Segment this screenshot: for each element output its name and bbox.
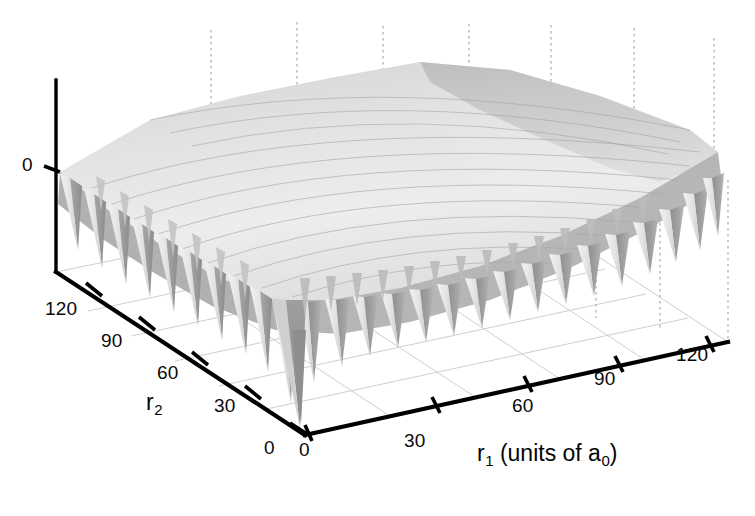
r1-axis-title-main: r [477,440,485,466]
r1-axis-line [305,342,728,435]
r2-tick-label-120: 120 [45,298,77,320]
z-tick-label-0: 0 [22,154,33,176]
r2-axis-title-main: r [146,389,154,415]
r1-axis-title-sub: 1 [485,452,494,469]
r2-tick-label-60: 60 [157,362,179,384]
r2-tick-label-0: 0 [264,437,275,459]
r2-axis-title: r2 [146,389,163,416]
r1-axis-title-rest: (units of a [494,440,601,466]
r1-tick-label-60: 60 [512,395,534,417]
r2-tick-label-30: 30 [214,395,236,417]
deepest-node-spike [272,298,306,428]
r1-tick-label-30: 30 [404,430,426,452]
r1-axis-title-sub2: 0 [601,452,610,469]
r1-axis-title-close: ) [610,440,618,466]
r1-tick-label-90: 90 [594,368,616,390]
r1-tick-label-120: 120 [676,344,708,366]
r2-axis-title-sub: 2 [154,401,163,418]
r1-tick-label-0: 0 [299,439,310,461]
r2-tick-label-90: 90 [101,330,123,352]
surface-plot-figure [0,0,755,516]
r1-axis-title: r1 (units of a0) [477,440,617,467]
